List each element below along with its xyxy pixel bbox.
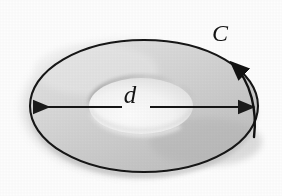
- figure-container: d C: [0, 0, 282, 196]
- annulus-diagram-svg: [0, 0, 282, 196]
- diameter-label: d: [124, 82, 137, 107]
- contour-label: C: [212, 21, 228, 45]
